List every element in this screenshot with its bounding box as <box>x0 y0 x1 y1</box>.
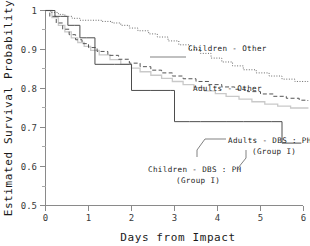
y-tick-label-0: 1 <box>32 6 37 16</box>
annotation-children-other: Children - Other <box>188 44 267 53</box>
y-axis-ticks: 1 0.9 0.8 0.7 0.6 0.5 <box>21 6 46 211</box>
x-tick-label-5: 5 <box>258 213 263 223</box>
series-adults-other <box>46 11 308 101</box>
annotation-adults-other: Adults - Other <box>193 84 262 93</box>
survival-curve-figure: 1 0.9 0.8 0.7 0.6 0.5 0 1 2 3 4 5 6 Days… <box>0 0 310 246</box>
y-axis-title: Estimated Survival Probability <box>2 0 15 216</box>
y-tick-label-5: 0.5 <box>21 201 37 211</box>
series-group <box>46 11 308 144</box>
annotation-adults-dbs-ph-line1: Adults - DBS : PH <box>228 136 310 145</box>
y-tick-label-2: 0.8 <box>21 84 37 94</box>
leader-adults-dbs-ph <box>197 139 226 157</box>
leader-lines <box>150 57 246 168</box>
x-axis-title: Days from Impact <box>120 231 236 244</box>
x-tick-label-2: 2 <box>129 213 134 223</box>
series-children-dbs-ph <box>46 11 302 144</box>
annotation-children-dbs-ph-line1: Children - DBS : PH <box>148 165 242 174</box>
series-adults-dbs-ph <box>46 11 308 109</box>
plot-canvas: 1 0.9 0.8 0.7 0.6 0.5 0 1 2 3 4 5 6 Days… <box>0 0 310 246</box>
x-tick-label-6: 6 <box>301 213 306 223</box>
x-tick-label-3: 3 <box>172 213 177 223</box>
x-axis-ticks: 0 1 2 3 4 5 6 <box>43 206 306 224</box>
y-tick-label-3: 0.7 <box>21 123 37 133</box>
annotations-group: Children - Other Adults - Other Adults -… <box>148 44 310 185</box>
x-tick-label-0: 0 <box>43 213 48 223</box>
y-tick-label-4: 0.6 <box>21 162 37 172</box>
x-tick-label-1: 1 <box>86 213 91 223</box>
annotation-children-dbs-ph-line2: (Group I) <box>176 176 220 185</box>
x-tick-label-4: 4 <box>215 213 220 223</box>
annotation-adults-dbs-ph-line2: (Group I) <box>252 147 296 156</box>
y-tick-label-1: 0.9 <box>21 45 37 55</box>
